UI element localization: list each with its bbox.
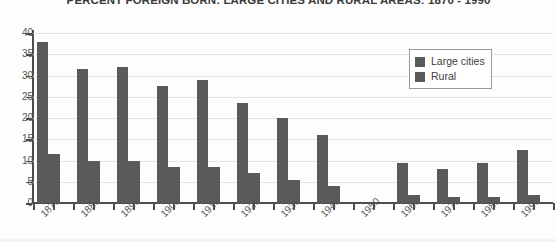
bar: [397, 163, 409, 203]
gridline: [33, 97, 553, 98]
legend-swatch-large-cities: [415, 57, 425, 67]
gridline: [33, 118, 553, 119]
x-tick-mark: [553, 203, 555, 210]
bar: [77, 69, 89, 203]
gridline: [33, 139, 553, 140]
x-tick-mark: [473, 203, 475, 210]
x-tick-mark: [273, 203, 275, 210]
x-tick-mark: [73, 203, 75, 210]
gridline: [33, 33, 553, 34]
x-tick-mark: [313, 203, 315, 210]
chart-title: PERCENT FOREIGN BORN: LARGE CITIES AND R…: [0, 0, 557, 7]
x-tick-mark: [393, 203, 395, 210]
bar: [277, 118, 289, 203]
legend-item-large-cities[interactable]: Large cities: [415, 54, 485, 69]
bar: [437, 169, 449, 203]
chart-legend: Large cities Rural: [409, 49, 492, 89]
bar: [317, 135, 329, 203]
bar: [517, 150, 529, 203]
x-tick-mark: [153, 203, 155, 210]
bar-chart: PERCENT FOREIGN BORN: LARGE CITIES AND R…: [0, 0, 557, 242]
bar: [237, 103, 249, 203]
x-tick-mark: [113, 203, 115, 210]
bar: [37, 42, 49, 204]
x-tick-mark: [513, 203, 515, 210]
legend-item-rural[interactable]: Rural: [415, 69, 485, 84]
x-tick-mark: [33, 203, 35, 210]
y-axis: 0510152025303540: [0, 0, 33, 242]
bar: [477, 163, 489, 203]
legend-label-rural: Rural: [431, 71, 456, 82]
gridline: [33, 161, 553, 162]
x-tick-mark: [353, 203, 355, 210]
x-tick-mark: [233, 203, 235, 210]
bar: [157, 86, 169, 203]
x-tick-mark: [193, 203, 195, 210]
legend-swatch-rural: [415, 72, 425, 82]
x-tick-mark: [433, 203, 435, 210]
bar: [197, 80, 209, 203]
bar: [117, 67, 129, 203]
legend-label-large-cities: Large cities: [431, 56, 485, 67]
